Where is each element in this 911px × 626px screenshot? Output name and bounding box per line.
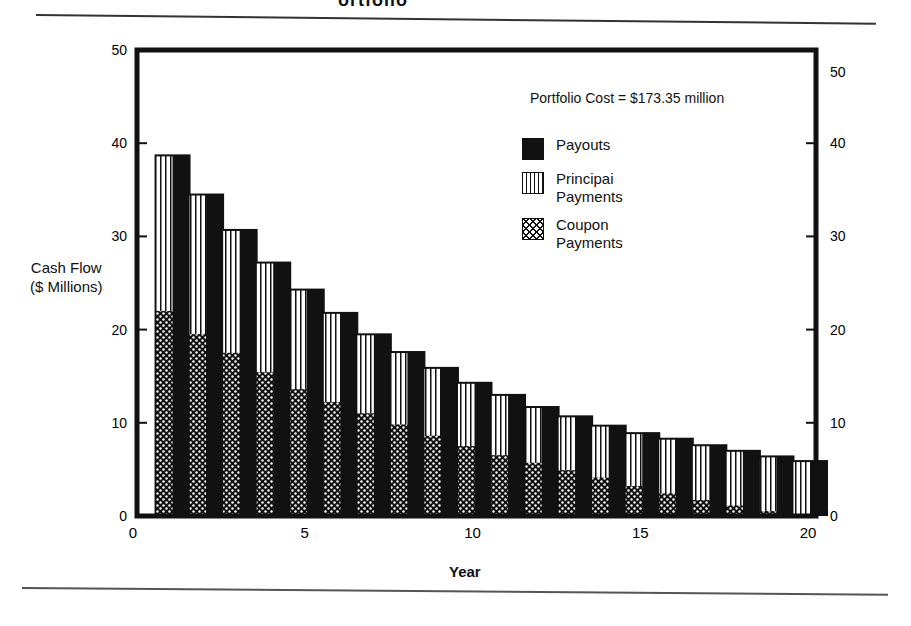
principal-segment: [592, 427, 609, 478]
coupon-segment: [525, 463, 542, 516]
coupon-segment: [391, 425, 408, 516]
bar-year-5: [289, 289, 325, 516]
coupon-segment: [190, 334, 207, 516]
coupon-segment: [458, 446, 475, 516]
y-tick-label-right: 50: [830, 64, 846, 80]
y-tick-label-right: 0: [830, 508, 838, 524]
legend: Payouts Principai Payments Coupon Paymen…: [522, 136, 686, 262]
x-tick-label: 15: [632, 524, 649, 541]
bar-year-7: [356, 333, 392, 516]
coupon-segment: [357, 413, 374, 516]
y-axis-title-line2: ($ Millions): [30, 277, 103, 296]
y-axis-title: Cash Flow ($ Millions): [30, 258, 103, 296]
principal-segment: [525, 408, 542, 463]
vertical-stripe-swatch-icon: [522, 172, 544, 194]
coupon-segment: [559, 470, 576, 516]
bar-year-6: [322, 312, 358, 516]
legend-label-line: Payments: [556, 234, 686, 252]
bar-year-18: [725, 450, 761, 516]
y-tick-label-right: 20: [830, 322, 846, 338]
y-tick-label-left: 40: [111, 135, 127, 151]
coupon-segment: [290, 389, 307, 516]
coupon-segment: [324, 402, 341, 516]
coupon-segment: [156, 311, 173, 516]
bar-year-17: [691, 444, 727, 516]
principal-segment: [760, 457, 777, 511]
principal-segment: [190, 196, 207, 335]
x-tick-label: 10: [464, 524, 481, 541]
legend-label: Coupon Payments: [556, 216, 686, 252]
y-tick-label-right: 30: [830, 228, 846, 244]
y-axis-title-line1: Cash Flow: [30, 258, 103, 277]
bar-year-3: [222, 229, 258, 516]
y-tick-label-left: 0: [119, 508, 127, 524]
coupon-segment: [257, 372, 274, 516]
bar-year-10: [457, 382, 493, 516]
bar-year-2: [188, 194, 224, 516]
coupon-segment: [424, 436, 441, 516]
y-tick-label-left: 20: [111, 322, 127, 338]
legend-label-line: Coupon: [556, 216, 686, 234]
principal-segment: [559, 417, 576, 470]
bar-year-13: [557, 415, 593, 516]
bar-year-8: [389, 351, 425, 516]
principal-segment: [458, 384, 475, 446]
bar-year-12: [524, 406, 560, 516]
legend-label: Payouts: [556, 136, 686, 154]
bar-year-16: [658, 438, 694, 516]
legend-item-payouts: Payouts: [522, 136, 686, 160]
bar-group: [155, 154, 828, 516]
y-tick-label-right: 10: [830, 415, 846, 431]
legend-label: Principai Payments: [556, 170, 686, 206]
bar-year-20: [792, 460, 828, 516]
principal-segment: [223, 231, 240, 353]
y-tick-label-left: 10: [111, 415, 127, 431]
legend-label-line: Payments: [556, 188, 686, 206]
principal-segment: [659, 440, 676, 494]
coupon-segment: [659, 494, 676, 516]
coupon-segment: [223, 353, 240, 516]
bar-year-11: [490, 394, 526, 516]
crosshatch-swatch-icon: [522, 218, 544, 240]
x-tick-label: 5: [301, 524, 309, 541]
bar-year-15: [624, 432, 660, 516]
y-tick-label-left: 30: [111, 228, 127, 244]
solid-swatch-icon: [522, 138, 544, 160]
x-axis-title: Year: [449, 563, 481, 580]
portfolio-cost-annotation: Portfolio Cost = $173.35 million: [530, 90, 724, 106]
principal-segment: [492, 396, 509, 456]
cash-flow-chart: 010203040500102030405005101520: [0, 0, 911, 626]
y-tick-label-left: 50: [111, 42, 127, 58]
coupon-segment: [492, 455, 509, 516]
principal-segment: [357, 335, 374, 413]
principal-segment: [794, 462, 811, 514]
legend-item-coupon: Coupon Payments: [522, 216, 686, 252]
principal-segment: [290, 291, 307, 390]
bar-year-9: [423, 367, 459, 516]
bar-year-14: [591, 425, 627, 516]
y-tick-label-right: 40: [830, 135, 846, 151]
bar-year-19: [758, 455, 794, 516]
bar-year-1: [155, 154, 191, 516]
coupon-segment: [592, 478, 609, 516]
principal-segment: [324, 314, 341, 402]
principal-segment: [726, 452, 743, 506]
legend-label-line: Principai: [556, 170, 686, 188]
principal-segment: [693, 446, 710, 500]
x-tick-label: 20: [800, 524, 817, 541]
x-tick-label: 0: [129, 524, 137, 541]
bar-year-4: [255, 262, 291, 516]
principal-segment: [156, 156, 173, 311]
coupon-segment: [626, 486, 643, 516]
legend-item-principal: Principai Payments: [522, 170, 686, 206]
principal-segment: [626, 434, 643, 486]
principal-segment: [391, 353, 408, 425]
principal-segment: [257, 264, 274, 373]
principal-segment: [424, 369, 441, 436]
